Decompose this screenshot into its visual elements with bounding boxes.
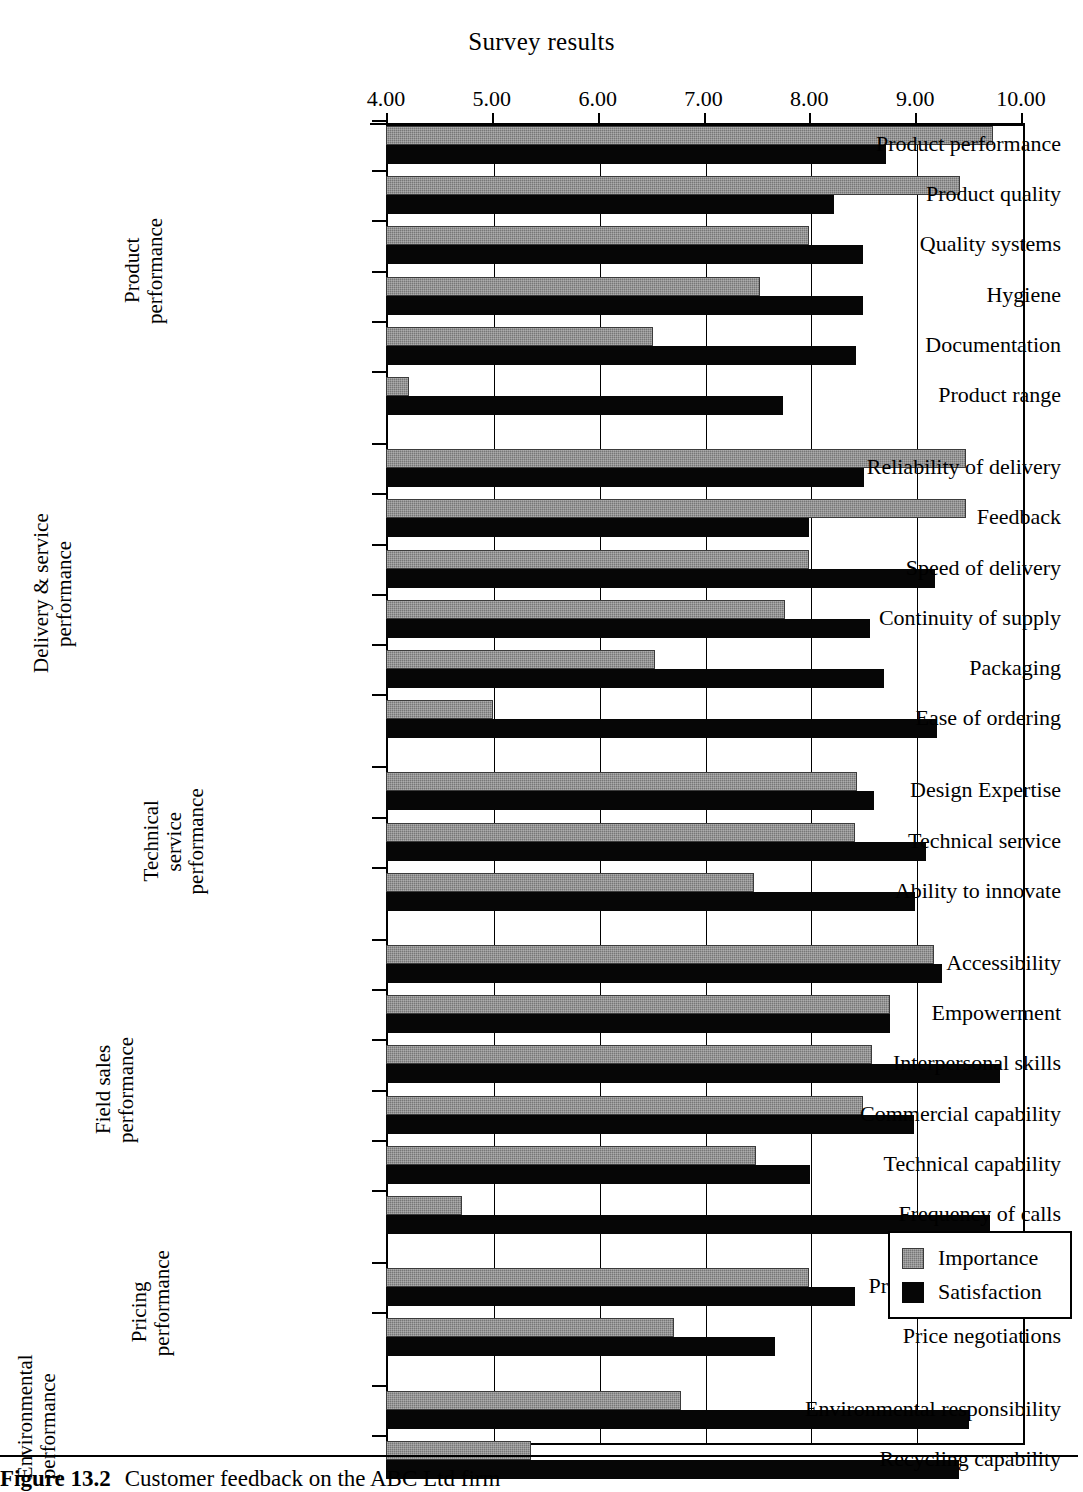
category-label: Ability to innovate [703, 878, 1083, 904]
category-label: Quality systems [703, 231, 1083, 257]
group-label: Product performance [121, 126, 166, 415]
legend-swatch-importance [902, 1248, 924, 1269]
category-axis-tick [372, 867, 386, 869]
category-label: Empowerment [703, 1000, 1083, 1026]
category-axis-tick [372, 120, 386, 122]
chart-title: Survey results [0, 28, 1083, 56]
category-axis-tick [372, 817, 386, 819]
figure-number: Figure 13.2 [0, 1466, 111, 1491]
category-label: Design Expertise [703, 777, 1083, 803]
category-axis-tick [372, 1312, 386, 1314]
category-axis-tick [372, 1190, 386, 1192]
category-axis-tick [372, 544, 386, 546]
bar-importance [386, 1391, 681, 1410]
category-axis-tick [372, 1090, 386, 1092]
category-axis-tick [372, 220, 386, 222]
bar-importance [386, 1318, 674, 1337]
category-axis-tick [372, 939, 386, 941]
group-label: Field sales performance [92, 945, 137, 1234]
category-label: Product range [703, 382, 1083, 408]
chart-legend: Importance Satisfaction [888, 1231, 1072, 1319]
category-label: Technical service [703, 828, 1083, 854]
category-label: Hygiene [703, 282, 1083, 308]
bar-importance [386, 327, 653, 346]
category-axis-tick [372, 371, 386, 373]
category-label: Frequency of calls [703, 1201, 1083, 1227]
legend-item-importance: Importance [902, 1241, 1070, 1275]
category-axis-tick [372, 644, 386, 646]
x-tick-label-10-00: 10.00 [996, 86, 1046, 112]
category-label: Environmental responsibility [703, 1396, 1083, 1422]
category-label: Commercial capability [703, 1101, 1083, 1127]
category-axis-tick [372, 1140, 386, 1142]
category-label: Continuity of supply [703, 605, 1083, 631]
legend-swatch-satisfaction [902, 1282, 924, 1303]
category-axis-tick [372, 170, 386, 172]
category-label: Feedback [703, 504, 1083, 530]
category-label: Ease of ordering [703, 705, 1083, 731]
category-axis-tick [372, 493, 386, 495]
category-axis-tick [372, 1435, 386, 1437]
category-axis-tick [372, 694, 386, 696]
bar-importance [386, 1146, 756, 1165]
category-axis-tick [372, 443, 386, 445]
category-axis-tick [372, 989, 386, 991]
category-axis-tick [372, 321, 386, 323]
category-axis-tick [372, 1039, 386, 1041]
x-tick-label-7-00: 7.00 [684, 86, 723, 112]
x-tick-label-9-00: 9.00 [896, 86, 935, 112]
category-label: Interpersonal skills [703, 1050, 1083, 1076]
figure-caption: Figure 13.2Customer feedback on the ABC … [0, 1466, 1083, 1492]
category-label: Documentation [703, 332, 1083, 358]
bar-importance [386, 650, 655, 669]
category-label: Technical capability [703, 1151, 1083, 1177]
legend-label-satisfaction: Satisfaction [938, 1279, 1042, 1305]
legend-item-satisfaction: Satisfaction [902, 1275, 1070, 1309]
category-axis-tick [372, 271, 386, 273]
bar-importance [386, 377, 409, 396]
x-tick-label-4-00: 4.00 [367, 86, 406, 112]
caption-rule [0, 1455, 1078, 1457]
group-label: Pricing performance [128, 1268, 173, 1356]
bar-importance [386, 1196, 462, 1215]
caption-text: Customer feedback on the ABC Ltd firm [125, 1466, 501, 1491]
category-label: Price negotiations [703, 1323, 1083, 1349]
category-label: Product performance [703, 131, 1083, 157]
category-axis-tick [372, 1262, 386, 1264]
category-label: Packaging [703, 655, 1083, 681]
category-label: Accessibility [703, 950, 1083, 976]
x-tick-label-5-00: 5.00 [473, 86, 512, 112]
category-axis-tick [372, 1385, 386, 1387]
legend-label-importance: Importance [938, 1245, 1038, 1271]
bar-importance [386, 700, 493, 719]
category-label: Product quality [703, 181, 1083, 207]
group-label: Technical service performance [140, 772, 208, 910]
category-axis-tick [372, 594, 386, 596]
x-tick-label-8-00: 8.00 [790, 86, 829, 112]
category-axis-tick [372, 766, 386, 768]
category-label: Reliability of delivery [703, 454, 1083, 480]
group-label: Delivery & service performance [30, 449, 75, 738]
bar-importance [386, 873, 754, 892]
x-axis-tick-labels: 4.005.006.007.008.009.0010.00 [0, 86, 1083, 112]
category-label: Speed of delivery [703, 555, 1083, 581]
x-tick-label-6-00: 6.00 [578, 86, 617, 112]
